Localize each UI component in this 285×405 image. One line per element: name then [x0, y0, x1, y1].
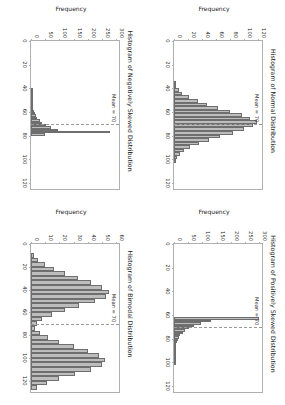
y-tick-label: 250: [248, 231, 254, 241]
y-tick-label: 40: [91, 234, 97, 241]
x-tick-label: 60: [165, 312, 171, 319]
x-tick-label: 100: [22, 154, 28, 164]
y-tick-label: 100: [247, 28, 253, 38]
histogram-figure: Histogram of Normal DistributionFrequenc…: [0, 0, 285, 405]
histogram-bars: [31, 244, 119, 392]
x-tick-label: 60: [165, 109, 171, 116]
chart-title: Histogram of Positively Skewed Distribut…: [270, 203, 277, 405]
x-tick-label: 120: [22, 376, 28, 386]
x-tick-label: 20: [22, 263, 28, 270]
y-tick-label: 60: [219, 31, 225, 38]
y-axis-label: Frequency: [199, 208, 230, 215]
y-tick-label: 100: [62, 28, 68, 38]
x-tick-label: 40: [22, 286, 28, 293]
rotated-figure-wrapper: Histogram of Normal DistributionFrequenc…: [0, 0, 285, 405]
y-tick-label: 250: [105, 28, 111, 38]
x-tick-label: 80: [22, 132, 28, 139]
y-tick-label: 200: [234, 231, 240, 241]
x-tick-label: 0: [22, 39, 28, 42]
mean-line: [31, 324, 119, 325]
y-tick-label: 300: [262, 231, 268, 241]
x-tick-label: 20: [165, 264, 171, 271]
y-tick-label: 120: [261, 28, 267, 38]
y-tick-label: 50: [105, 234, 111, 241]
mean-line: [174, 327, 262, 328]
plot-area: 020406080100120020406080100120Mean = 70: [173, 40, 263, 190]
chart-title: Histogram of Negatively Skewed Distribut…: [127, 0, 134, 202]
x-tick-label: 80: [22, 332, 28, 339]
plot-area: 050100150200250300020406080100120Mean = …: [173, 243, 263, 393]
y-tick-label: 50: [48, 31, 54, 38]
x-tick-label: 80: [165, 132, 171, 139]
y-tick-label: 100: [205, 231, 211, 241]
plot-area: 0102030405060020406080100120Mean = 70: [30, 243, 120, 393]
y-tick-label: 0: [177, 35, 183, 38]
x-tick-label: 120: [165, 381, 171, 391]
y-tick-label: 150: [77, 28, 83, 38]
histogram-bars: [31, 41, 119, 189]
plot-area: 050100150200250300020406080100120Mean = …: [30, 40, 120, 190]
y-tick-label: 10: [48, 234, 54, 241]
x-tick-label: 40: [165, 85, 171, 92]
x-tick-label: 100: [165, 154, 171, 164]
y-tick-label: 300: [119, 28, 125, 38]
chart-panel-negatively-skewed: Histogram of Negatively Skewed Distribut…: [0, 0, 142, 202]
y-tick-label: 80: [233, 31, 239, 38]
y-tick-label: 60: [119, 234, 125, 241]
y-tick-label: 20: [191, 31, 197, 38]
chart-panel-positively-skewed: Histogram of Positively Skewed Distribut…: [143, 203, 285, 405]
chart-title: Histogram of Bimodal Distribution: [127, 203, 134, 405]
x-tick-label: 0: [165, 242, 171, 245]
histogram-bar: [31, 133, 45, 135]
x-tick-label: 0: [165, 39, 171, 42]
x-tick-label: 40: [22, 85, 28, 92]
chart-panel-normal: Histogram of Normal DistributionFrequenc…: [143, 0, 285, 202]
chart-panel-bimodal: Histogram of Bimodal DistributionFrequen…: [0, 203, 142, 405]
x-tick-label: 120: [22, 178, 28, 188]
x-tick-label: 120: [165, 178, 171, 188]
histogram-bar: [31, 385, 37, 390]
y-tick-label: 0: [34, 35, 40, 38]
mean-annotation-label: Mean = 70: [254, 297, 260, 327]
mean-annotation-label: Mean = 70: [111, 294, 117, 324]
histogram-bars: [174, 41, 262, 189]
x-tick-label: 100: [22, 353, 28, 363]
x-tick-label: 40: [165, 288, 171, 295]
y-tick-label: 0: [177, 238, 183, 241]
x-tick-label: 0: [22, 242, 28, 245]
y-tick-label: 0: [34, 238, 40, 241]
x-tick-label: 80: [165, 335, 171, 342]
histogram-bars: [174, 244, 262, 392]
x-tick-label: 60: [22, 109, 28, 116]
mean-line: [31, 124, 119, 125]
x-tick-label: 20: [22, 61, 28, 68]
y-axis-label: Frequency: [56, 5, 87, 12]
y-axis-label: Frequency: [56, 208, 87, 215]
x-tick-label: 20: [165, 61, 171, 68]
histogram-bar: [174, 362, 176, 364]
y-tick-label: 150: [220, 231, 226, 241]
x-tick-label: 60: [22, 309, 28, 316]
y-tick-label: 200: [91, 28, 97, 38]
mean-annotation-label: Mean = 70: [254, 94, 260, 124]
mean-line: [174, 124, 262, 125]
mean-annotation-label: Mean = 70: [111, 94, 117, 124]
y-tick-label: 50: [191, 234, 197, 241]
y-tick-label: 20: [62, 234, 68, 241]
y-tick-label: 30: [77, 234, 83, 241]
histogram-bar: [174, 159, 176, 163]
y-tick-label: 40: [205, 31, 211, 38]
x-tick-label: 100: [165, 357, 171, 367]
y-axis-label: Frequency: [199, 5, 230, 12]
chart-title: Histogram of Normal Distribution: [270, 0, 277, 202]
